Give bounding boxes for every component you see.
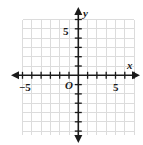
coordinate-plane-figure: x y O 5 −5 5 <box>0 0 143 145</box>
coordinate-grid-svg <box>0 0 143 145</box>
figure-background <box>0 0 143 145</box>
y-tick-label-positive-5: 5 <box>63 26 69 37</box>
x-tick-label-positive-5: 5 <box>113 82 119 93</box>
x-tick-label-negative-5: −5 <box>19 82 31 93</box>
origin-label: O <box>65 80 73 91</box>
x-axis-label: x <box>127 60 133 71</box>
y-axis-label: y <box>83 8 88 19</box>
